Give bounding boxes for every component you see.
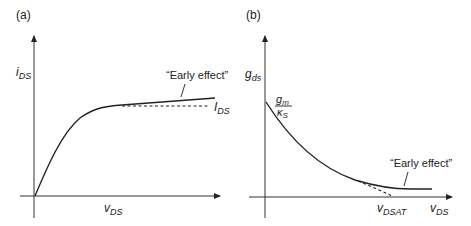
panel-a-ids-curve xyxy=(35,98,215,196)
panel-b: (b) gds gm κS “Early effect” vDSAT vDS xyxy=(245,8,452,218)
panel-a-annotation-pointer xyxy=(181,84,185,97)
panel-a-y-axis-label: iDS xyxy=(16,65,31,81)
panel-b-annotation-pointer xyxy=(404,172,408,186)
panel-b-vdsat-label: vDSAT xyxy=(377,201,408,217)
fraction-numerator: gm xyxy=(276,93,289,107)
panel-a-IDS-label: IDS xyxy=(214,100,230,116)
panel-b-ideal-dashed-line xyxy=(358,181,392,196)
panel-b-label: (b) xyxy=(246,8,261,22)
panel-b-intercept-label: gm κS xyxy=(275,93,292,120)
panel-b-x-axis-label: vDS xyxy=(430,201,449,217)
diagram-canvas: (a) iDS vDS “Early effect” IDS (b) gds g… xyxy=(0,0,471,226)
panel-b-early-effect-annotation: “Early effect” xyxy=(390,157,452,169)
fraction-denominator: κS xyxy=(277,106,289,120)
panel-a-early-effect-annotation: “Early effect” xyxy=(166,69,228,81)
panel-a-label: (a) xyxy=(16,8,31,22)
panel-b-y-axis-label: gds xyxy=(245,67,262,83)
panel-a-x-axis-label: vDS xyxy=(104,201,123,217)
panel-a: (a) iDS vDS “Early effect” IDS xyxy=(16,8,230,218)
